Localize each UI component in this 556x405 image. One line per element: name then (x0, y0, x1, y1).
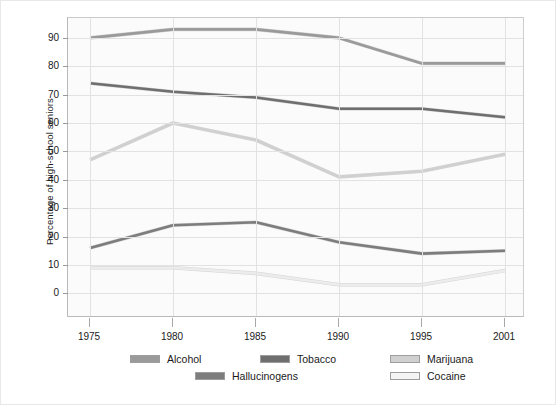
gridline-vertical (505, 18, 506, 316)
y-tick-mark (63, 151, 68, 152)
y-tick-label: 70 (29, 88, 59, 99)
legend-label: Hallucinogens (232, 370, 298, 382)
gridline-vertical (173, 18, 174, 316)
y-tick-mark (63, 237, 68, 238)
y-tick-mark (63, 123, 68, 124)
gridline-horizontal (68, 237, 523, 238)
legend-item-tobacco[interactable]: Tobacco (260, 353, 336, 365)
x-tick-mark (421, 318, 422, 327)
y-tick-mark (63, 66, 68, 67)
gridlines (68, 18, 523, 316)
x-tick-mark (255, 318, 256, 327)
legend-label: Marijuana (427, 353, 473, 365)
y-tick-label: 10 (29, 258, 59, 269)
gridline-horizontal (68, 180, 523, 181)
gridline-horizontal (68, 293, 523, 294)
x-tick-label: 1985 (230, 331, 280, 342)
x-tick-mark (89, 318, 90, 327)
legend-item-hallucinogens[interactable]: Hallucinogens (195, 370, 298, 382)
gridline-vertical (90, 18, 91, 316)
x-tick-label: 1980 (147, 331, 197, 342)
legend-label: Cocaine (427, 370, 466, 382)
gridline-vertical (256, 18, 257, 316)
gridline-horizontal (68, 95, 523, 96)
x-tick-mark (504, 318, 505, 327)
legend-swatch-tobacco (260, 355, 290, 363)
x-tick-label: 2001 (479, 331, 529, 342)
y-tick-label: 60 (29, 117, 59, 128)
legend-label: Tobacco (297, 353, 336, 365)
legend-item-alcohol[interactable]: Alcohol (130, 353, 201, 365)
x-tick-label: 1995 (396, 331, 446, 342)
gridline-horizontal (68, 66, 523, 67)
y-tick-mark (63, 180, 68, 181)
gridline-horizontal (68, 265, 523, 266)
legend-item-cocaine[interactable]: Cocaine (390, 370, 466, 382)
chart-legend: AlcoholTobaccoMarijuanaHallucinogensCoca… (67, 353, 524, 393)
gridline-horizontal (68, 151, 523, 152)
y-tick-label: 0 (29, 287, 59, 298)
x-tick-mark (338, 318, 339, 327)
legend-swatch-marijuana (390, 355, 420, 363)
y-tick-label: 40 (29, 173, 59, 184)
legend-label: Alcohol (167, 353, 201, 365)
plot-area (67, 17, 524, 317)
y-tick-mark (63, 38, 68, 39)
x-tick-label: 1990 (313, 331, 363, 342)
y-tick-label: 30 (29, 202, 59, 213)
x-tick-label: 1975 (64, 331, 114, 342)
gridline-horizontal (68, 38, 523, 39)
y-tick-mark (63, 265, 68, 266)
gridline-horizontal (68, 123, 523, 124)
chart-figure: Percentage of high-school seniors 010203… (0, 0, 556, 405)
y-tick-label: 80 (29, 60, 59, 71)
gridline-horizontal (68, 208, 523, 209)
x-tick-mark (172, 318, 173, 327)
legend-swatch-alcohol (130, 355, 160, 363)
gridline-vertical (339, 18, 340, 316)
y-tick-mark (63, 95, 68, 96)
legend-swatch-hallucinogens (195, 372, 225, 380)
y-tick-label: 90 (29, 31, 59, 42)
gridline-vertical (422, 18, 423, 316)
y-tick-label: 50 (29, 145, 59, 156)
y-tick-mark (63, 208, 68, 209)
y-tick-mark (63, 293, 68, 294)
legend-swatch-cocaine (390, 372, 420, 380)
legend-item-marijuana[interactable]: Marijuana (390, 353, 473, 365)
y-tick-label: 20 (29, 230, 59, 241)
